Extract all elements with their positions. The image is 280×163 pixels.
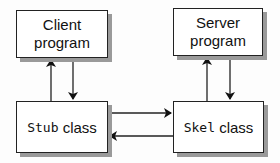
rmi-diagram: Client program Server program Stub class… (0, 0, 280, 163)
client-label-line2: program (34, 34, 90, 52)
server-label-line1: Server (190, 14, 246, 32)
server-program-box: Server program (173, 8, 263, 56)
stub-class-label: class (58, 119, 96, 136)
skel-code-label: Skel (184, 120, 215, 135)
server-label-line2: program (190, 32, 246, 50)
skel-class-box: Skel class (173, 101, 264, 153)
stub-code-label: Stub (27, 120, 58, 135)
client-label-line1: Client (34, 16, 90, 34)
stub-class-box: Stub class (16, 101, 108, 153)
skel-class-label: class (215, 119, 253, 136)
client-program-box: Client program (16, 10, 108, 58)
